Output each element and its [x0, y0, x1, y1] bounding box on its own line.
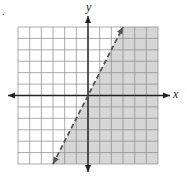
inequality-graph: [0, 0, 187, 177]
x-axis-right-arrow-icon: [163, 93, 170, 99]
x-axis-label: x: [173, 87, 178, 102]
x-axis-left-arrow-icon: [8, 93, 15, 99]
y-axis-label: y: [86, 0, 91, 15]
y-axis-up-arrow-icon: [85, 16, 91, 23]
y-axis-down-arrow-icon: [85, 165, 91, 172]
